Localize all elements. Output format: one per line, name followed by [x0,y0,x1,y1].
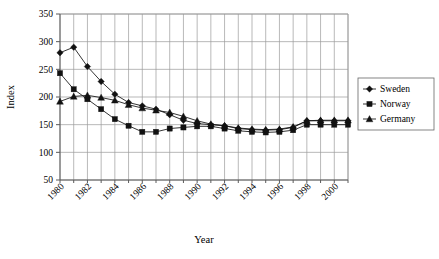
legend-marker-square-icon [367,101,372,106]
y-tick-label: 350 [39,9,54,19]
x-tick-label: 1996 [265,181,286,202]
y-tick-label: 50 [44,175,54,185]
data-point-norway [153,129,158,134]
x-axis-title: Year [194,234,214,245]
x-tick-label: 1990 [183,181,204,202]
data-point-norway [181,125,186,130]
x-tick-label: 1982 [73,181,94,202]
x-tick-label: 1986 [128,181,149,202]
data-point-norway [71,87,76,92]
legend-label-germany: Germany [380,114,416,124]
data-point-germany [194,117,201,123]
line-chart: 50100150200250300350 1980198219841986198… [0,0,439,259]
legend-label-sweden: Sweden [380,84,410,94]
y-tick-label: 150 [39,120,54,130]
y-tick-label: 250 [39,65,54,75]
x-tick-label: 1998 [292,181,313,202]
series-line-sweden [60,47,348,130]
data-point-norway [195,124,200,129]
y-tick-label: 300 [39,37,54,47]
data-point-germany [57,98,64,104]
data-point-norway [167,126,172,131]
x-tick-label: 1984 [100,181,121,202]
legend[interactable]: SwedenNorwayGermany [358,78,434,130]
x-tick-label: 1992 [210,181,231,202]
data-point-norway [112,117,117,122]
plot-gridlines [60,14,348,180]
data-point-norway [140,129,145,134]
x-tick-label: 1994 [237,181,258,202]
x-tick-label: 2000 [320,181,341,202]
x-tick-label: 1988 [155,181,176,202]
x-axis-ticks: 1980198219841986198819901992199419961998… [45,180,348,202]
data-point-norway [99,107,104,112]
legend-label-norway: Norway [380,99,411,109]
data-point-norway [126,123,131,128]
data-point-sweden [57,50,63,56]
data-point-sweden [71,44,77,50]
y-tick-label: 100 [39,148,54,158]
data-point-germany [84,92,91,98]
chart-container: 50100150200250300350 1980198219841986198… [0,0,439,259]
y-axis-ticks: 50100150200250300350 [39,9,60,185]
data-point-norway [57,71,62,76]
y-axis-title: Index [5,84,16,109]
y-tick-label: 200 [39,92,54,102]
